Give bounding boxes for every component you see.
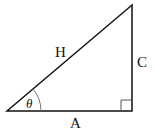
hypotenuse-label: H — [55, 44, 66, 60]
angle-label: θ — [26, 96, 33, 111]
adjacent-label: A — [70, 115, 81, 131]
right-angle-marker — [121, 100, 132, 111]
angle-arc — [33, 89, 41, 111]
triangle-diagram: H C A θ — [0, 0, 155, 131]
opposite-label: C — [137, 54, 147, 70]
